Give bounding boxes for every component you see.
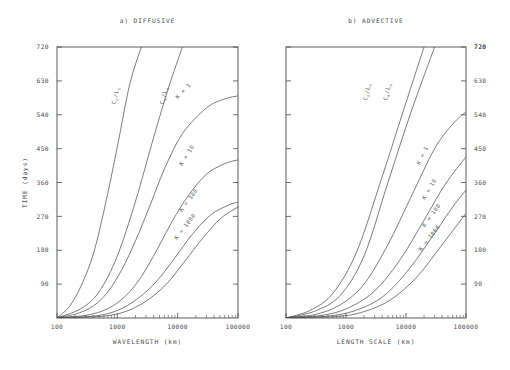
y-tick-label: 180 — [474, 246, 486, 253]
x-tick-label: 100 — [280, 323, 292, 330]
y-tick-label: 180 — [37, 246, 49, 253]
panel-title: a) DIFFUSIVE — [120, 17, 176, 24]
y-tick-label: 270 — [474, 213, 486, 220]
x-tick-label: 1000 — [338, 323, 355, 330]
x-tick-label: 1000 — [109, 323, 126, 330]
x-tick-label: 100 — [51, 323, 63, 330]
y-tick-label: 450 — [474, 145, 486, 152]
y-tick-label: 450 — [37, 145, 49, 152]
x-axis-title: LENGTH SCALE (km) — [337, 338, 416, 345]
x-tick-label: 10000 — [396, 323, 417, 330]
y-tick-label: 630 — [474, 77, 486, 84]
y-axis-title: TIME (days) — [21, 157, 29, 208]
y-tick-label: 360 — [37, 179, 49, 186]
y-tick-label: 90 — [41, 280, 49, 287]
y-tick-label: 90 — [474, 280, 482, 287]
x-axis-title: WAVELENGTH (km) — [113, 338, 182, 345]
y-tick-label: 540 — [37, 111, 49, 118]
x-tick-label: 100000 — [226, 323, 251, 330]
y-tick-label: 720 — [474, 43, 486, 50]
y-tick-label: 270 — [37, 213, 49, 220]
y-tick-label: 360 — [474, 179, 486, 186]
x-tick-label: 100000 — [454, 323, 479, 330]
figure-canvas: a) DIFFUSIVE9018027036045054063072010010… — [0, 0, 510, 370]
y-tick-label: 540 — [474, 111, 486, 118]
panel-title: b) ADVECTIVE — [348, 17, 404, 24]
y-tick-label: 630 — [37, 77, 49, 84]
y-tick-label: 720 — [37, 43, 49, 50]
x-tick-label: 10000 — [167, 323, 188, 330]
